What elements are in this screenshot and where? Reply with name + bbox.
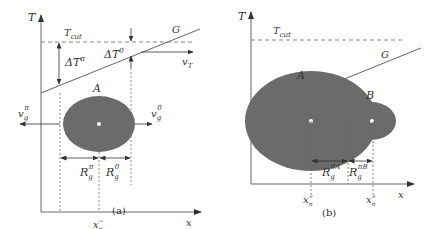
vg-0-label: vg0 (151, 104, 162, 122)
r-pi-label: Rgπ (79, 163, 94, 181)
panel-a: T x Tcut G ΔTπ ΔT0 vT A (18, 11, 201, 229)
xn-minus-label: xn− (93, 217, 104, 229)
panel-b: T x Tcut G A B Rg0A RgπB xn− (238, 10, 421, 218)
r-pib-label: RgπB (348, 163, 368, 181)
x-axis-label-b: x (398, 189, 404, 200)
diagram-canvas: T x Tcut G ΔTπ ΔT0 vT A (0, 0, 440, 229)
grain-a-label: A (92, 82, 101, 95)
t-axis-label-b: T (238, 10, 247, 23)
gradient-label-b: G (381, 49, 389, 60)
grain-a-center (97, 122, 101, 126)
xn-minus-label-b: xn− (303, 192, 314, 207)
vg-pi-label: vgπ (18, 104, 29, 122)
gradient-label: G (172, 24, 180, 35)
delta-t-pi-label: ΔTπ (64, 55, 85, 69)
grain-a-label-b: A (296, 69, 305, 82)
t-axis-label: T (28, 11, 37, 24)
tcut-label-b: Tcut (273, 25, 291, 39)
vt-label: vT (182, 56, 194, 70)
grain-b-label: B (365, 89, 374, 102)
delta-t-0-label: ΔT0 (103, 47, 124, 61)
caption-b: (b) (322, 207, 336, 218)
caption-a: (a) (112, 205, 126, 216)
xn-plus-label-b: xn+ (366, 192, 377, 207)
r-0-label: Rg0 (105, 163, 120, 181)
r-0a-label: Rg0A (321, 163, 340, 181)
tcut-label: Tcut (64, 27, 82, 41)
x-axis-label: x (186, 217, 192, 228)
